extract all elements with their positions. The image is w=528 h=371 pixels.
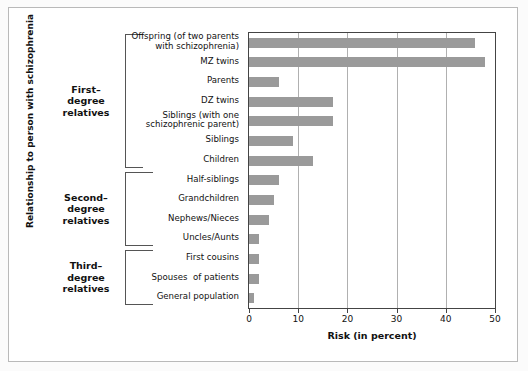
category-label: Offspring (of two parents with schizophr… <box>127 32 239 51</box>
y-axis-title: Relationship to person with schizophreni… <box>25 0 35 246</box>
plot-area <box>248 32 496 309</box>
group-label: First– degree relatives <box>53 84 119 119</box>
category-label: Parents <box>127 76 239 86</box>
x-tick-label: 20 <box>332 314 362 324</box>
bar <box>249 38 475 48</box>
bar <box>249 116 333 126</box>
gridline <box>397 33 398 308</box>
chart-figure: Relationship to person with schizophreni… <box>8 7 518 362</box>
category-label-column: Offspring (of two parents with schizophr… <box>129 32 239 309</box>
x-axis-tick <box>495 309 496 313</box>
gridline <box>347 33 348 308</box>
bar <box>249 77 279 87</box>
category-label: Nephews/Nieces <box>127 214 239 224</box>
bar <box>249 274 259 284</box>
bar <box>249 57 485 67</box>
x-axis: 01020304050 <box>248 309 496 329</box>
category-label: Half-siblings <box>127 175 239 185</box>
x-axis-tick <box>347 309 348 313</box>
bar <box>249 215 269 225</box>
category-label: General population <box>127 292 239 302</box>
group-label: Third– degree relatives <box>53 260 119 295</box>
category-label: Siblings <box>127 135 239 145</box>
category-label: First cousins <box>127 253 239 263</box>
x-tick-label: 0 <box>234 314 264 324</box>
x-tick-label: 50 <box>480 314 510 324</box>
bar <box>249 195 274 205</box>
bar <box>249 156 313 166</box>
bar <box>249 97 333 107</box>
bar <box>249 175 279 185</box>
x-axis-tick <box>298 309 299 313</box>
x-tick-label: 10 <box>283 314 313 324</box>
category-label: Spouses of patients <box>127 273 239 283</box>
x-axis-tick <box>446 309 447 313</box>
category-label: Siblings (with one schizophrenic parent) <box>127 111 239 130</box>
category-label: MZ twins <box>127 57 239 67</box>
x-axis-title: Risk (in percent) <box>248 330 496 341</box>
bar <box>249 234 259 244</box>
x-axis-tick <box>249 309 250 313</box>
x-axis-tick <box>397 309 398 313</box>
category-label: Children <box>127 155 239 165</box>
category-label: Grandchildren <box>127 194 239 204</box>
bar <box>249 136 293 146</box>
group-label: Second– degree relatives <box>53 192 119 227</box>
bar <box>249 293 254 303</box>
bar <box>249 254 259 264</box>
category-label: DZ twins <box>127 96 239 106</box>
gridline <box>446 33 447 308</box>
x-tick-label: 40 <box>431 314 461 324</box>
gridline <box>298 33 299 308</box>
x-tick-label: 30 <box>382 314 412 324</box>
category-label: Uncles/Aunts <box>127 233 239 243</box>
